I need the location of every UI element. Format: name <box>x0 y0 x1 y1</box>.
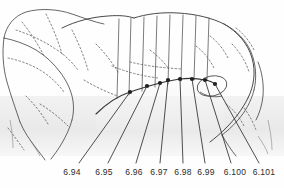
callout-label: 6.101 <box>253 167 275 177</box>
callout-label: 6.100 <box>224 167 246 177</box>
callout-label: 6.95 <box>95 167 112 177</box>
callout-label: 6.99 <box>197 167 214 177</box>
callout-label: 6.97 <box>150 167 167 177</box>
drawing-canvas <box>0 0 284 188</box>
callout-label: 6.96 <box>125 167 142 177</box>
inferior-dome <box>96 79 224 131</box>
callout-label: 6.98 <box>174 167 191 177</box>
callout-label: 6.94 <box>63 167 80 177</box>
figure-panel: 6.94 6.95 6.96 6.97 6.98 6.99 6.100 6.10… <box>0 0 284 188</box>
